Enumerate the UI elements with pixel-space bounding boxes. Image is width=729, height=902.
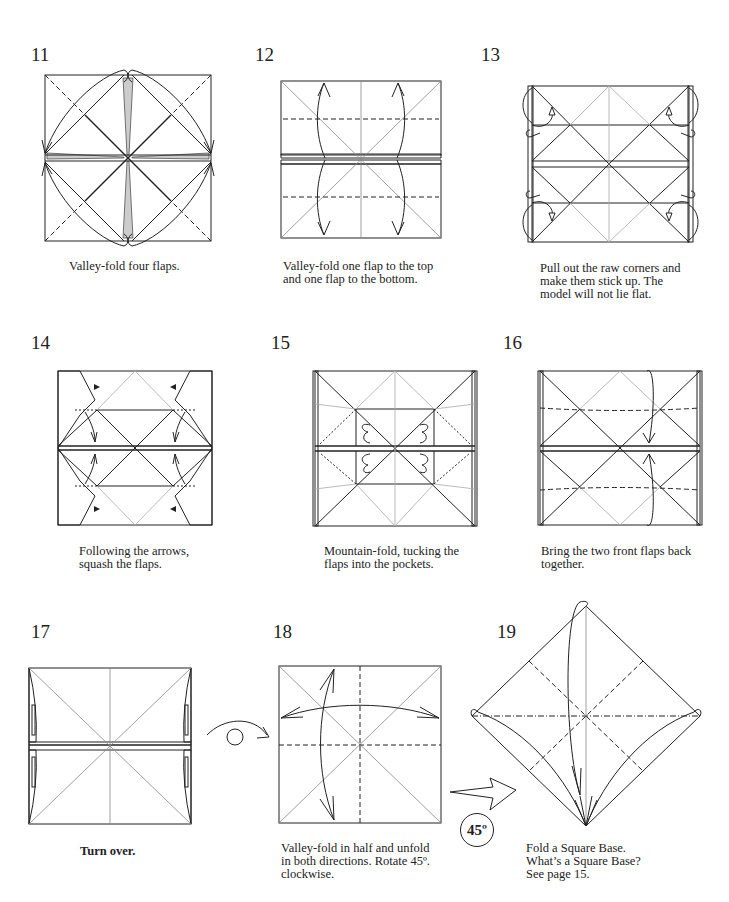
step-18-caption: Valley-fold in half and unfold in both d…: [281, 842, 430, 881]
step-15-number: 15: [271, 333, 290, 352]
step-15-diagram: [312, 370, 482, 530]
step-19-diagram: [468, 600, 708, 840]
step-12-caption: Valley-fold one flap to the top and one …: [283, 260, 433, 286]
step-12-number: 12: [255, 45, 274, 64]
step-13-number: 13: [481, 45, 500, 64]
turn-over-icon: [205, 713, 275, 753]
step-13-diagram: [520, 85, 710, 255]
step-19-caption: Fold a Square Base. What’s a Square Base…: [526, 842, 641, 881]
step-14-caption: Following the arrows, squash the flaps.: [79, 545, 189, 571]
step-13-caption: Pull out the raw corners and make them s…: [540, 262, 681, 301]
step-16-caption: Bring the two front flaps back together.: [541, 545, 691, 571]
step-14-number: 14: [31, 333, 50, 352]
step-11-number: 11: [31, 45, 49, 64]
step-15-caption: Mountain-fold, tucking the flaps into th…: [324, 545, 459, 571]
step-17-number: 17: [31, 622, 50, 641]
step-12-diagram: [280, 80, 450, 250]
step-11-diagram: [40, 70, 220, 250]
step-16-diagram: [537, 365, 707, 535]
step-18-diagram: [278, 665, 448, 835]
step-11-caption: Valley-fold four flaps.: [69, 260, 180, 273]
step-18-number: 18: [273, 622, 292, 641]
step-14-diagram: [55, 370, 215, 530]
step-17-diagram: [28, 667, 198, 837]
step-17-caption: Turn over.: [80, 845, 135, 858]
step-16-number: 16: [503, 333, 522, 352]
